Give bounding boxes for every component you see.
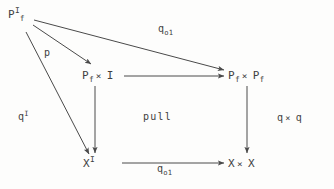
node-x-i-sup: I [90, 155, 95, 164]
node-pf-times-i: Pf×I [82, 70, 114, 81]
edge-label-p: p [44, 48, 50, 58]
commutative-diagram: PIf Pf×I Pf×Pf XI X×X qo1 p qI q×q qo1 p… [0, 0, 334, 189]
edge-label-q01-bottom-sub: o1 [163, 168, 172, 177]
node-x-times-x-operand: X [245, 157, 255, 170]
node-pf-times-i-sub: f [89, 75, 94, 84]
edge-label-q-i: qI [18, 112, 29, 122]
edge-label-p-base: p [44, 47, 50, 58]
times-operator-icon: × [235, 158, 245, 169]
times-operator-icon: × [240, 70, 250, 81]
node-pf-times-pf: Pf×Pf [228, 70, 264, 81]
edge-label-q-times-q-operand: q [293, 112, 302, 123]
times-operator-icon: × [94, 70, 104, 81]
node-x-times-x-base: X [228, 157, 235, 170]
arrow-pfi-to-xi [26, 32, 89, 154]
node-x-i-base: X [83, 157, 90, 170]
node-pf-times-pf-sub: f [235, 75, 240, 84]
edge-label-q01-bottom: qo1 [157, 164, 172, 174]
edge-label-q01-top: qo1 [158, 24, 173, 34]
node-pf-times-pf-base: P [228, 69, 235, 82]
edge-label-q01-top-sub: o1 [164, 28, 173, 37]
node-x-times-x: X×X [228, 158, 255, 169]
node-pf-times-i-operand: I [104, 69, 114, 82]
times-operator-icon: × [283, 113, 292, 123]
edge-label-q-i-sup: I [24, 109, 28, 118]
node-pf-times-pf-operand-sub: f [260, 75, 265, 84]
node-pf-i: PIf [8, 9, 24, 20]
edge-label-q-times-q: q×q [277, 113, 302, 123]
node-pf-times-i-base: P [82, 69, 89, 82]
pullback-annotation: pull [143, 112, 172, 122]
node-pf-times-pf-operand: P [250, 69, 260, 82]
arrow-pfi-to-pfi-times [33, 25, 91, 64]
node-x-i: XI [83, 158, 95, 169]
node-pf-i-base: P [8, 8, 15, 21]
node-pf-i-sub: f [20, 14, 25, 23]
